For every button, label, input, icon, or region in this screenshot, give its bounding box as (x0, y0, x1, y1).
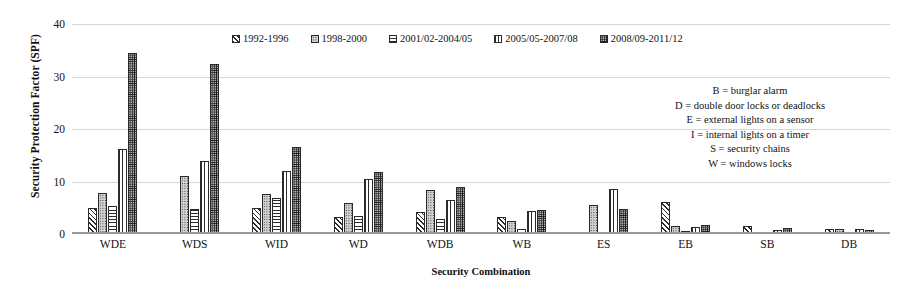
bar (200, 161, 209, 235)
annotation-line: I = internal lights on a timer (600, 128, 900, 143)
bar (272, 198, 281, 234)
x-axis-tick-label: SB (726, 238, 808, 250)
legend-label: 1992-1996 (243, 33, 289, 44)
bar (456, 187, 465, 234)
bar (180, 176, 189, 234)
bar (108, 206, 117, 234)
legend-item: 2008/09-2011/12 (600, 33, 683, 44)
x-axis-tick-label: WDB (399, 238, 481, 250)
x-axis-tick-labels: WDEWDSWIDWDWDBWBESEBSBDB (72, 238, 890, 250)
annotation-line: E = external lights on a sensor (600, 113, 900, 128)
x-axis-tick-label: DB (808, 238, 890, 250)
x-axis-title: Security Combination (72, 266, 890, 277)
bar (589, 205, 598, 234)
y-axis-tick-label: 20 (37, 123, 65, 135)
legend-swatch-icon (232, 35, 240, 43)
bar (88, 208, 97, 234)
x-axis-tick-label: EB (645, 238, 727, 250)
bar (446, 200, 455, 234)
bar (118, 149, 127, 234)
legend-swatch-icon (389, 35, 397, 43)
y-axis-title: Security Protection Factor (SPF) (29, 11, 41, 221)
legend-swatch-icon (600, 35, 608, 43)
y-axis-tick-label: 40 (37, 18, 65, 30)
bar (374, 172, 383, 234)
chart-legend: 1992-19961998-20002001/02-2004/052005/05… (232, 33, 683, 44)
bar (282, 171, 291, 234)
bar-group (481, 24, 563, 234)
legend-item: 2001/02-2004/05 (389, 33, 472, 44)
bar (537, 210, 546, 234)
bar (98, 193, 107, 234)
bar (364, 179, 373, 234)
bar-group (317, 24, 399, 234)
bar-group (236, 24, 318, 234)
legend-item: 2005/05-2007/08 (494, 33, 577, 44)
bar (416, 212, 425, 234)
x-axis-tick-label: WD (317, 238, 399, 250)
bar (527, 211, 536, 234)
y-axis-tick-label: 30 (37, 71, 65, 83)
legend-item: 1992-1996 (232, 33, 289, 44)
annotation-line: B = burglar alarm (600, 84, 900, 99)
bar (619, 209, 628, 234)
x-axis-tick-label: WB (481, 238, 563, 250)
x-axis-tick-label: WID (236, 238, 318, 250)
bar (252, 208, 261, 234)
bar (661, 202, 670, 234)
bar (292, 147, 301, 234)
x-axis-tick-label: WDS (154, 238, 236, 250)
bar (426, 190, 435, 234)
bar (344, 203, 353, 235)
bar (609, 189, 618, 234)
legend-swatch-icon (494, 35, 502, 43)
bar-group (72, 24, 154, 234)
annotation-line: W = windows locks (600, 157, 900, 172)
legend-item: 1998-2000 (311, 33, 368, 44)
gridline (72, 234, 890, 235)
bar-group (154, 24, 236, 234)
x-axis-line (72, 232, 890, 234)
annotation-line: D = double door locks or deadlocks (600, 99, 900, 114)
bar (128, 53, 137, 234)
bar (262, 194, 271, 234)
legend-label: 2005/05-2007/08 (505, 33, 577, 44)
legend-label: 2001/02-2004/05 (400, 33, 472, 44)
bar-group (399, 24, 481, 234)
abbreviation-key: B = burglar alarmD = double door locks o… (600, 84, 900, 172)
legend-label: 2008/09-2011/12 (611, 33, 683, 44)
legend-label: 1998-2000 (322, 33, 368, 44)
y-axis-tick-label: 10 (37, 176, 65, 188)
bar (190, 209, 199, 234)
chart-container: Security Protection Factor (SPF) 0102030… (0, 0, 918, 292)
annotation-line: S = security chains (600, 142, 900, 157)
bar (210, 64, 219, 234)
x-axis-tick-label: WDE (72, 238, 154, 250)
y-axis-tick-label: 0 (37, 228, 65, 240)
legend-swatch-icon (311, 35, 319, 43)
x-axis-tick-label: ES (563, 238, 645, 250)
